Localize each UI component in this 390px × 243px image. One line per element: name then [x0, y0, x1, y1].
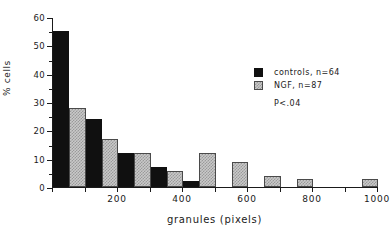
- y-axis-title-text: % cells: [2, 60, 12, 96]
- y-tick-label-10: 10: [33, 155, 45, 165]
- x-tick-label-1000: 1000: [364, 194, 390, 204]
- legend-label-controls: controls, n=64: [274, 68, 340, 77]
- y-tick-50: [47, 46, 52, 47]
- y-tick-15: [49, 146, 52, 147]
- x-tick-1000: [377, 188, 378, 192]
- y-tick-35: [49, 89, 52, 90]
- bar-ngf-900-1000: [362, 179, 378, 188]
- bar-controls-200-300: [118, 153, 134, 187]
- bar-ngf-0-100: [69, 108, 85, 187]
- bar-group: [183, 18, 216, 187]
- bar-group: [53, 18, 86, 187]
- legend-label-ngf: NGF, n=87: [274, 81, 322, 90]
- x-tick-800: [312, 188, 313, 192]
- chart-legend: controls, n=64 NGF, n=87 P<.04: [254, 66, 340, 108]
- bar-ngf-300-400: [167, 171, 183, 187]
- bar-ngf-400-500: [199, 153, 215, 187]
- y-tick-45: [49, 61, 52, 62]
- legend-item-ngf: NGF, n=87: [254, 79, 340, 92]
- bar-group: [346, 18, 379, 187]
- bar-ngf-100-200: [102, 139, 118, 187]
- y-tick-20: [47, 131, 52, 132]
- bar-group: [151, 18, 184, 187]
- x-tick-400: [182, 188, 183, 192]
- x-tick-200: [117, 188, 118, 192]
- bar-controls-300-400: [151, 167, 167, 187]
- y-tick-label-0: 0: [39, 183, 45, 193]
- legend-swatch-ngf: [254, 81, 263, 90]
- x-tick-900: [345, 188, 346, 192]
- bar-ngf-200-300: [134, 153, 150, 187]
- legend-item-controls: controls, n=64: [254, 66, 340, 79]
- y-tick-60: [47, 18, 52, 19]
- x-axis-title: granules (pixels): [52, 214, 377, 225]
- bar-ngf-500-600: [232, 162, 248, 188]
- y-tick-30: [47, 103, 52, 104]
- y-tick-55: [49, 32, 52, 33]
- y-tick-10: [47, 160, 52, 161]
- bar-controls-400-500: [183, 181, 199, 187]
- x-tick-label-800: 800: [302, 194, 322, 204]
- y-tick-5: [49, 174, 52, 175]
- x-tick-600: [247, 188, 248, 192]
- bar-controls-100-200: [86, 119, 102, 187]
- bar-ngf-600-700: [264, 176, 280, 187]
- bar-group: [86, 18, 119, 187]
- y-tick-25: [49, 117, 52, 118]
- y-tick-label-40: 40: [33, 70, 45, 80]
- bar-controls-0-100: [53, 31, 69, 187]
- y-tick-label-20: 20: [33, 126, 45, 136]
- x-tick-label-600: 600: [237, 194, 257, 204]
- x-tick-100: [85, 188, 86, 192]
- legend-swatch-controls: [254, 68, 263, 77]
- x-tick-label-400: 400: [172, 194, 192, 204]
- y-tick-label-50: 50: [33, 41, 45, 51]
- bar-ngf-700-800: [297, 179, 313, 188]
- y-axis-title: % cells: [2, 0, 12, 78]
- x-tick-500: [215, 188, 216, 192]
- y-tick-label-60: 60: [33, 13, 45, 23]
- y-tick-40: [47, 75, 52, 76]
- bar-group: [118, 18, 151, 187]
- bar-group: [216, 18, 249, 187]
- x-tick-700: [280, 188, 281, 192]
- p-value-annotation: P<.04: [274, 99, 340, 108]
- x-tick-300: [150, 188, 151, 192]
- x-tick-label-200: 200: [107, 194, 127, 204]
- y-tick-label-30: 30: [33, 98, 45, 108]
- x-tick-0: [52, 188, 53, 192]
